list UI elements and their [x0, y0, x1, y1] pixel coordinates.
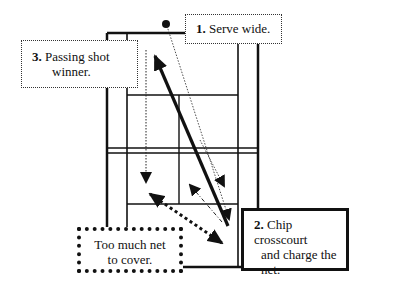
serve-path	[167, 26, 229, 219]
callout-text: Too much net	[81, 237, 179, 252]
callout-passing-shot: 3. Passing shot winner.	[21, 40, 138, 88]
passing-shot-path	[155, 56, 228, 226]
callout-chip-crosscourt: 2. Chip crosscourt and charge the net.	[241, 208, 349, 271]
serve-path-alt	[200, 140, 224, 186]
callout-text: and charge the	[254, 247, 346, 262]
callout-too-much-net: Too much net to cover.	[77, 227, 183, 273]
callout-text: net.	[254, 262, 346, 277]
callout-text: winner.	[32, 64, 137, 79]
callout-step: 3.	[32, 49, 42, 64]
server-position-dot	[162, 20, 170, 28]
callout-step: 2.	[254, 217, 264, 232]
callout-text: to cover.	[81, 252, 179, 267]
callout-text: Serve wide.	[209, 21, 270, 36]
callout-text: Passing shot	[45, 49, 110, 64]
callout-step: 1.	[196, 21, 206, 36]
callout-serve-wide: 1. Serve wide.	[185, 14, 282, 44]
